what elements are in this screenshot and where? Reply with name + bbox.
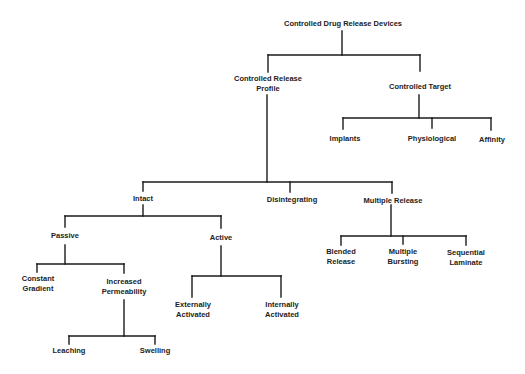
node-intact: Intact — [133, 194, 153, 204]
node-label-line2: Laminate — [447, 258, 485, 268]
node-label: Leaching — [53, 346, 86, 356]
node-label-line1: Increased — [102, 277, 147, 287]
node-label-line1: Sequential — [447, 248, 485, 258]
node-label-line1: Blended — [326, 247, 356, 257]
node-label-line2: Permeability — [102, 287, 147, 297]
node-increased-permeability: Increased Permeability — [102, 277, 147, 297]
node-label: Active — [210, 233, 233, 243]
node-controlled-release-profile: Controlled Release Profile — [234, 74, 302, 94]
node-label-line1: Constant — [22, 274, 55, 284]
tree-diagram: Controlled Drug Release Devices Controll… — [0, 0, 525, 374]
node-label-line2: Activated — [265, 310, 299, 320]
node-label: Passive — [51, 231, 79, 241]
node-label-line1: Controlled Release — [234, 74, 302, 84]
node-root: Controlled Drug Release Devices — [284, 19, 402, 29]
node-label-line2: Bursting — [388, 257, 419, 267]
node-label-line1: Multiple — [388, 247, 419, 257]
node-label: Disintegrating — [267, 195, 317, 205]
node-constant-gradient: Constant Gradient — [22, 274, 55, 294]
node-controlled-target: Controlled Target — [389, 82, 451, 92]
node-label: Affinity — [479, 135, 505, 145]
node-swelling: Swelling — [140, 346, 170, 356]
node-passive: Passive — [51, 231, 79, 241]
node-label: Physiological — [408, 134, 456, 144]
node-blended-release: Blended Release — [326, 247, 356, 267]
node-active: Active — [210, 233, 233, 243]
node-label: Controlled Target — [389, 82, 451, 92]
node-label: Swelling — [140, 346, 170, 356]
node-label: Implants — [330, 134, 361, 144]
node-physiological: Physiological — [408, 134, 456, 144]
node-label-line2: Activated — [175, 310, 211, 320]
node-label-line2: Release — [326, 257, 356, 267]
node-label-line2: Profile — [234, 84, 302, 94]
node-label-line1: Internally — [265, 300, 299, 310]
node-label: Controlled Drug Release Devices — [284, 19, 402, 29]
node-sequential-laminate: Sequential Laminate — [447, 248, 485, 268]
node-label-line1: Externally — [175, 300, 211, 310]
node-implants: Implants — [330, 134, 361, 144]
node-multiple-release: Multiple Release — [364, 196, 423, 206]
node-label-line2: Gradient — [22, 284, 55, 294]
node-label: Multiple Release — [364, 196, 423, 206]
node-disintegrating: Disintegrating — [267, 195, 317, 205]
node-leaching: Leaching — [53, 346, 86, 356]
node-affinity: Affinity — [479, 135, 505, 145]
node-label: Intact — [133, 194, 153, 204]
connector-lines — [0, 0, 525, 374]
node-multiple-bursting: Multiple Bursting — [388, 247, 419, 267]
node-internally-activated: Internally Activated — [265, 300, 299, 320]
node-externally-activated: Externally Activated — [175, 300, 211, 320]
